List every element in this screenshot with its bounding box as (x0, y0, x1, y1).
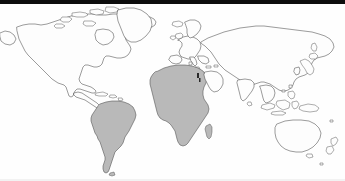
red-sea-mark (199, 78, 201, 82)
korea-peninsula (294, 67, 300, 75)
new-zealand-south-island (326, 146, 334, 154)
region-caribbean (95, 92, 108, 96)
philippines (288, 91, 295, 99)
hainan (282, 90, 285, 92)
region-europe (178, 36, 201, 59)
alaska-edge-sliver (0, 31, 16, 45)
pacific-island-2 (320, 163, 323, 165)
indonesia-sumatra (261, 103, 275, 110)
indonesia-java (271, 111, 286, 115)
region-new-zealand (331, 137, 338, 146)
region-australia (275, 120, 321, 152)
region-arabian-peninsula (204, 71, 223, 92)
scandinavia (185, 20, 201, 38)
region-madagascar (205, 124, 212, 139)
caribbean-island-3 (118, 98, 123, 101)
world-map-canvas (0, 0, 345, 181)
balkans (198, 56, 209, 64)
sri-lanka (247, 102, 252, 106)
region-south-america (91, 101, 136, 173)
mediterranean-island-cyprus (214, 65, 218, 67)
region-iceland (172, 21, 183, 27)
mediterranean-island-crete (206, 66, 211, 68)
iberian-peninsula (169, 55, 182, 64)
pacific-island-1 (330, 120, 333, 122)
arctic-island-4 (105, 7, 119, 13)
tierra-del-fuego (109, 172, 115, 176)
tasmania (306, 154, 313, 158)
taiwan (289, 85, 292, 88)
region-india (237, 79, 254, 101)
region-africa (150, 65, 209, 146)
nile-delta-mark (197, 73, 199, 78)
new-guinea (299, 104, 319, 112)
caribbean-island-2 (109, 95, 117, 98)
region-southeast-asia (260, 85, 275, 103)
indonesia-sulawesi (292, 101, 299, 109)
mediterranean-island-sardinia (189, 62, 192, 65)
indonesia-borneo (276, 100, 290, 110)
bottom-edge-divider (0, 179, 345, 181)
arctic-island-1 (72, 12, 88, 17)
world-map-figure: World Map (0, 0, 345, 181)
ireland (170, 36, 176, 40)
